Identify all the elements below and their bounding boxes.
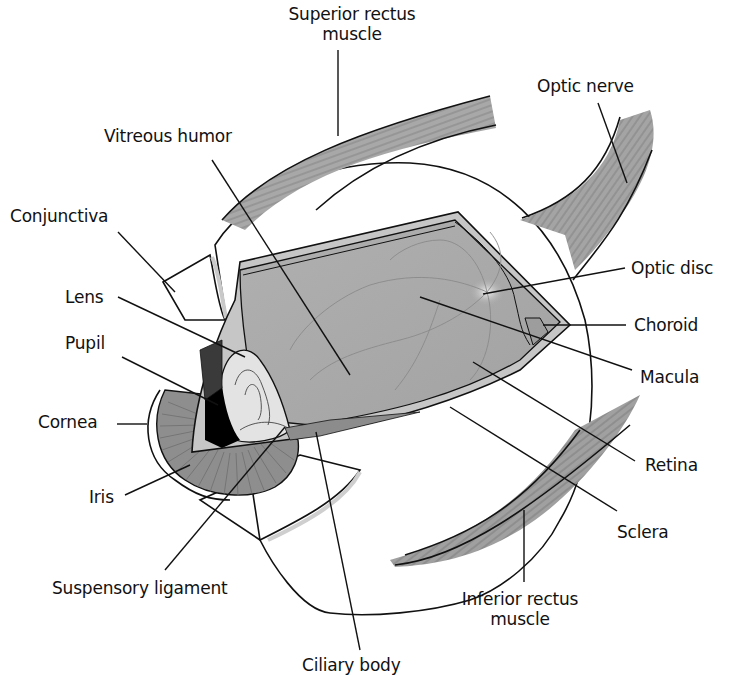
eye-anatomy-diagram: Superior rectus muscle Optic nerve Vitre… <box>0 0 741 699</box>
label-lens: Lens <box>65 287 103 307</box>
label-cornea: Cornea <box>38 412 97 432</box>
label-choroid: Choroid <box>634 315 698 335</box>
label-optic-nerve: Optic nerve <box>537 76 634 96</box>
label-iris: Iris <box>89 487 114 507</box>
label-line: Superior rectus <box>287 4 417 24</box>
optic-nerve <box>520 110 654 280</box>
label-retina: Retina <box>645 455 698 475</box>
label-sclera: Sclera <box>617 522 669 542</box>
leader-iris <box>125 465 190 495</box>
label-inferior-rectus-muscle: Inferior rectus muscle <box>450 589 590 629</box>
label-line: Inferior rectus <box>450 589 590 609</box>
label-line: muscle <box>450 609 590 629</box>
label-macula: Macula <box>640 367 699 387</box>
label-line: muscle <box>287 24 417 44</box>
label-vitreous-humor: Vitreous humor <box>104 126 232 146</box>
inferior-rectus-muscle <box>390 395 640 567</box>
superior-rectus-muscle <box>222 96 496 230</box>
label-conjunctiva: Conjunctiva <box>10 206 108 226</box>
label-optic-disc: Optic disc <box>631 258 713 278</box>
label-superior-rectus-muscle: Superior rectus muscle <box>287 4 417 44</box>
label-suspensory-ligament: Suspensory ligament <box>52 578 227 598</box>
label-pupil: Pupil <box>65 333 105 353</box>
label-ciliary-body: Ciliary body <box>302 655 401 675</box>
leader-conjunctiva <box>118 232 175 292</box>
